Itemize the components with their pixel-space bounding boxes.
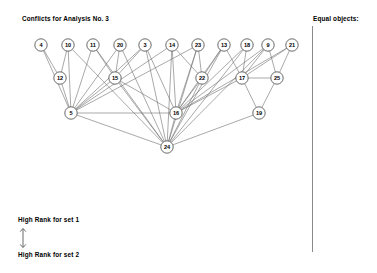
graph-node-label: 20 [117, 42, 123, 48]
graph-node[interactable]: 21 [286, 39, 298, 51]
legend-high-rank-set-1: High Rank for set 1 [18, 216, 79, 223]
graph-node-label: 10 [65, 42, 71, 48]
graph-node[interactable]: 22 [196, 72, 208, 84]
legend-high-rank-set-2: High Rank for set 2 [18, 251, 79, 258]
graph-edge [62, 84, 69, 107]
graph-node[interactable]: 24 [161, 141, 173, 153]
graph-node[interactable]: 15 [109, 72, 121, 84]
graph-node[interactable]: 9 [262, 39, 274, 51]
graph-edge [180, 49, 242, 108]
graph-edge [199, 51, 202, 72]
conflict-graph-window: Conflicts for Analysis No. 3 Equal objec… [0, 0, 377, 273]
graph-edge [280, 51, 290, 73]
graph-node[interactable]: 3 [139, 39, 151, 51]
graph-edge [76, 82, 110, 109]
graph-edge [247, 48, 287, 74]
graph-node[interactable]: 10 [62, 39, 74, 51]
graph-node-label: 21 [289, 42, 295, 48]
graph-node-label: 13 [221, 42, 227, 48]
graph-node-label: 25 [274, 75, 280, 81]
graph-node[interactable]: 14 [166, 39, 178, 51]
graph-node-layer[interactable]: 410112031423131892112152217255161924 [35, 39, 298, 153]
graph-node-label: 9 [266, 42, 269, 48]
graph-edge [170, 50, 221, 141]
graph-node-label: 22 [199, 75, 205, 81]
conflict-graph-canvas[interactable]: 410112031423131892112152217255161924 [0, 0, 377, 273]
graph-node[interactable]: 16 [170, 107, 182, 119]
graph-edge [146, 51, 165, 141]
graph-node[interactable]: 19 [253, 107, 265, 119]
graph-edge-layer [44, 48, 290, 145]
graph-edge [96, 50, 111, 73]
graph-edge [173, 115, 253, 145]
graph-edge [119, 83, 164, 142]
graph-node[interactable]: 4 [35, 39, 47, 51]
graph-node-label: 5 [69, 110, 72, 116]
graph-edge [61, 51, 66, 72]
graph-edge [77, 115, 161, 145]
graph-edge [119, 50, 141, 74]
graph-node[interactable]: 18 [241, 39, 253, 51]
graph-edge [181, 49, 263, 110]
graph-edge [68, 51, 70, 107]
graph-node-label: 23 [195, 42, 201, 48]
graph-node[interactable]: 17 [236, 72, 248, 84]
graph-edge [44, 50, 57, 72]
graph-edge [172, 51, 175, 107]
graph-node[interactable]: 5 [65, 107, 77, 119]
graph-node[interactable]: 23 [192, 39, 204, 51]
graph-edge [116, 51, 119, 72]
graph-edge [76, 49, 141, 109]
graph-node-label: 24 [164, 144, 171, 150]
graph-node-label: 11 [90, 42, 96, 48]
graph-node[interactable]: 25 [271, 72, 283, 84]
graph-node-label: 15 [112, 75, 118, 81]
graph-node-label: 19 [256, 110, 262, 116]
graph-edge [205, 50, 220, 73]
graph-node-label: 14 [169, 42, 176, 48]
graph-edge [227, 50, 239, 72]
graph-node[interactable]: 12 [54, 72, 66, 84]
graph-node-label: 12 [57, 75, 63, 81]
graph-node-label: 18 [244, 42, 250, 48]
graph-edge [176, 50, 198, 74]
rank-direction-arrow [20, 228, 26, 247]
graph-edge [262, 84, 274, 108]
graph-node-label: 17 [239, 75, 245, 81]
graph-edge [270, 51, 276, 72]
graph-edge [245, 84, 257, 108]
graph-node-label: 3 [143, 42, 146, 48]
graph-node[interactable]: 11 [87, 39, 99, 51]
graph-node-label: 16 [173, 110, 179, 116]
graph-edge [181, 81, 236, 110]
graph-node[interactable]: 20 [114, 39, 126, 51]
graph-node[interactable]: 13 [218, 39, 230, 51]
